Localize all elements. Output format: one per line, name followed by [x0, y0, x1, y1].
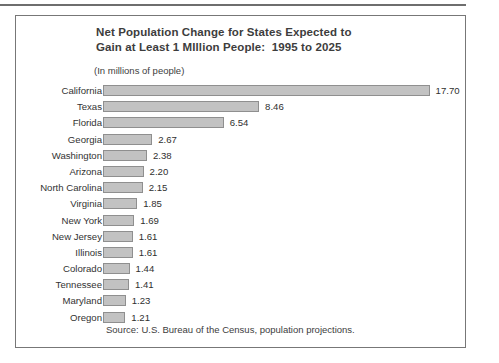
bar-category-label: Washington	[52, 150, 102, 161]
bar-row: Washington2.38	[16, 149, 467, 165]
bar	[103, 263, 130, 274]
bar-value-label: 1.61	[139, 247, 158, 258]
chart-title-line-1: Net Population Change for States Expecte…	[96, 25, 436, 40]
bar-row: Virginia1.85	[16, 197, 467, 213]
bar	[103, 279, 129, 290]
bar-row: Arizona2.20	[16, 165, 467, 181]
bar-row: Maryland1.23	[16, 294, 467, 310]
bar-row: Texas8.46	[16, 100, 467, 116]
bar-value-label: 8.46	[265, 101, 284, 112]
chart-source-note: Source: U.S. Bureau of the Census, popul…	[106, 324, 355, 335]
bar	[103, 247, 133, 258]
bar-value-label: 1.44	[136, 263, 155, 274]
chart-title-line-2: Gain at Least 1 MIllion People: 1995 to …	[96, 40, 436, 55]
bar	[103, 198, 137, 209]
bar-category-label: Virginia	[70, 198, 102, 209]
chart-subtitle: (In millions of people)	[94, 65, 184, 76]
bar-row: Colorado1.44	[16, 262, 467, 278]
bar-category-label: California	[61, 85, 102, 96]
bar	[103, 182, 143, 193]
bar-chart-plot-area: California17.70Texas8.46Florida6.54Georg…	[16, 84, 467, 327]
bar-value-label: 1.85	[143, 198, 162, 209]
bar-value-label: 1.21	[131, 312, 150, 323]
bar-category-label: Georgia	[68, 134, 102, 145]
bar-category-label: Arizona	[69, 166, 102, 177]
bar	[103, 231, 133, 242]
bar-row: New York1.69	[16, 214, 467, 230]
bar-value-label: 1.23	[132, 295, 151, 306]
bar-category-label: New York	[61, 215, 102, 226]
bar-value-label: 6.54	[230, 117, 249, 128]
bar-value-label: 2.38	[153, 150, 172, 161]
bar	[103, 295, 126, 306]
bar	[103, 150, 147, 161]
bar	[103, 134, 152, 145]
bar	[103, 215, 134, 226]
bar-category-label: Tennessee	[56, 279, 102, 290]
bar-value-label: 2.20	[150, 166, 169, 177]
page-top-rule	[0, 4, 466, 6]
chart-title: Net Population Change for States Expecte…	[96, 25, 436, 55]
bar-row: California17.70	[16, 84, 467, 100]
bar-value-label: 1.61	[139, 231, 158, 242]
bar-row: New Jersey1.61	[16, 230, 467, 246]
bar	[103, 117, 224, 128]
bar-category-label: North Carolina	[40, 182, 102, 193]
bar-category-label: New Jersey	[52, 231, 102, 242]
bar	[103, 166, 144, 177]
bar-category-label: Florida	[73, 117, 102, 128]
bar-value-label: 2.15	[149, 182, 168, 193]
figure-frame: Net Population Change for States Expecte…	[15, 15, 466, 348]
bar-category-label: Colorado	[63, 263, 102, 274]
bar-category-label: Texas	[77, 101, 102, 112]
bar-value-label: 17.70	[436, 85, 460, 96]
bar-row: Illinois1.61	[16, 246, 467, 262]
bar-category-label: Illinois	[75, 247, 102, 258]
bar-row: Florida6.54	[16, 116, 467, 132]
bar	[103, 312, 125, 323]
bar	[103, 85, 430, 96]
bar-row: North Carolina2.15	[16, 181, 467, 197]
bar-value-label: 1.69	[140, 215, 159, 226]
bar-row: Georgia2.67	[16, 133, 467, 149]
bar	[103, 101, 259, 112]
bar-value-label: 2.67	[158, 134, 177, 145]
bar-row: Tennessee1.41	[16, 278, 467, 294]
bar-value-label: 1.41	[135, 279, 154, 290]
bar-category-label: Maryland	[63, 295, 102, 306]
bar-category-label: Oregon	[70, 312, 102, 323]
